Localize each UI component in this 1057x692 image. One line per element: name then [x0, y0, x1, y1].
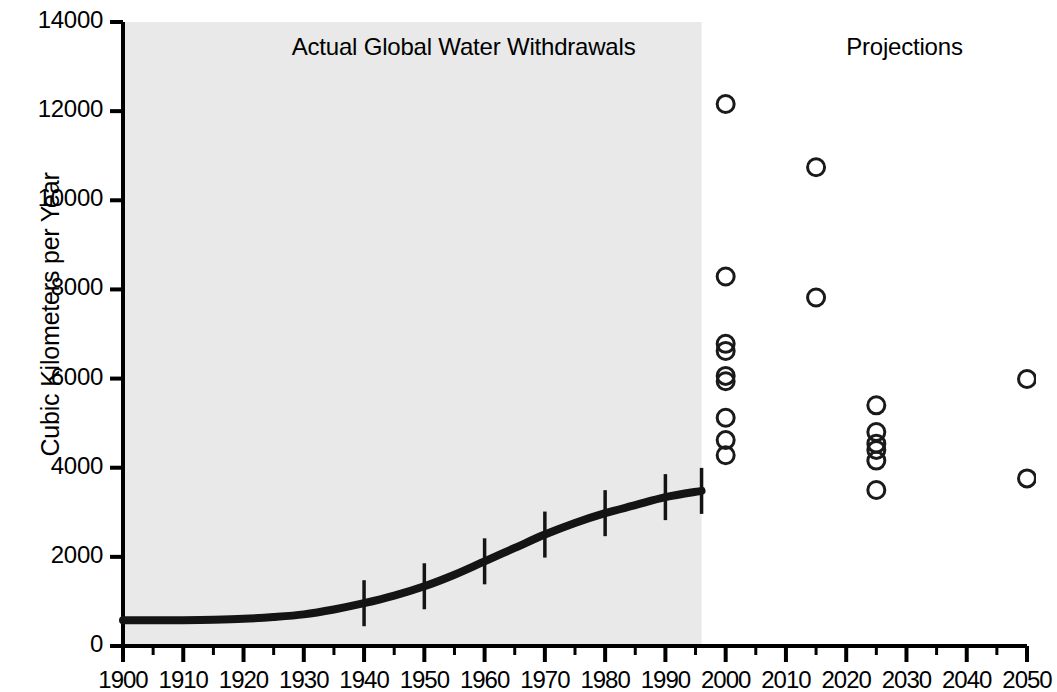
projection-point — [1019, 371, 1036, 388]
projection-point — [808, 289, 825, 306]
y-tick-label: 6000 — [51, 363, 103, 391]
projections-region-label: Projections — [846, 33, 963, 61]
y-tick-label: 0 — [90, 630, 103, 658]
projection-point — [1019, 470, 1036, 487]
projection-point — [868, 482, 885, 499]
projection-point — [717, 268, 734, 285]
projection-point — [868, 452, 885, 469]
y-tick-label: 8000 — [51, 273, 103, 301]
y-tick-label: 2000 — [51, 541, 103, 569]
actual-region-label: Actual Global Water Withdrawals — [292, 33, 636, 61]
projection-point — [808, 159, 825, 176]
shaded-rect — [123, 22, 702, 646]
projection-point — [717, 96, 734, 113]
y-tick-label: 12000 — [38, 95, 103, 123]
x-tick-label: 2050 — [987, 666, 1057, 692]
projection-points — [717, 96, 1035, 499]
y-tick-label: 10000 — [38, 184, 103, 212]
y-tick-label: 14000 — [38, 6, 103, 34]
y-tick-label: 4000 — [51, 452, 103, 480]
projection-point — [717, 409, 734, 426]
projection-point — [868, 397, 885, 414]
actual-period-shading — [123, 22, 702, 646]
